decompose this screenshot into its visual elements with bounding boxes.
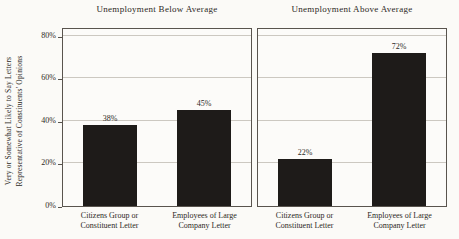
category-label: Citizens Group or Constituent Letter (62, 211, 157, 232)
plot-area: 22% 72% (257, 28, 447, 207)
y-tick-label: 0% (0, 201, 56, 210)
bar-value-label: 38% (103, 114, 118, 123)
bar-value-label: 45% (197, 99, 212, 108)
x-axis-labels: Citizens Group or Constituent Letter Emp… (257, 211, 447, 232)
bar-employees-large-company (372, 53, 426, 206)
y-tick-label: 20% (0, 158, 56, 167)
y-tick-label: 40% (0, 116, 56, 125)
bar-citizens-group (278, 159, 332, 206)
panels-container: Unemployment Below Average 38% 45% Citiz… (62, 0, 447, 232)
y-tick-label: 80% (0, 31, 56, 40)
category-label-text: Employees of Large Company Letter (160, 211, 250, 232)
bar-citizens-group (83, 125, 137, 206)
category-label-text: Employees of Large Company Letter (355, 211, 445, 232)
plot-area: 38% 45% (62, 28, 252, 207)
panel-title: Unemployment Below Average (62, 0, 252, 28)
bar-group: 38% (63, 29, 157, 206)
bar-value-label: 72% (392, 42, 407, 51)
category-label-text: Citizens Group or Constituent Letter (65, 211, 155, 232)
category-label-text: Citizens Group or Constituent Letter (260, 211, 350, 232)
panel-unemployment-above-average: Unemployment Above Average 22% 72% Citiz… (257, 0, 447, 232)
category-label: Employees of Large Company Letter (157, 211, 252, 232)
figure-root: Very or Somewhat Likely to Say Letters R… (0, 0, 459, 239)
panel-title: Unemployment Above Average (257, 0, 447, 28)
x-axis-labels: Citizens Group or Constituent Letter Emp… (62, 211, 252, 232)
bar-group: 72% (352, 29, 446, 206)
panel-unemployment-below-average: Unemployment Below Average 38% 45% Citiz… (62, 0, 252, 232)
bar-group: 22% (258, 29, 352, 206)
category-label: Citizens Group or Constituent Letter (257, 211, 352, 232)
bar-employees-large-company (177, 110, 231, 206)
y-tick-label: 60% (0, 73, 56, 82)
bar-value-label: 22% (298, 148, 313, 157)
bar-group: 45% (157, 29, 251, 206)
category-label: Employees of Large Company Letter (352, 211, 447, 232)
